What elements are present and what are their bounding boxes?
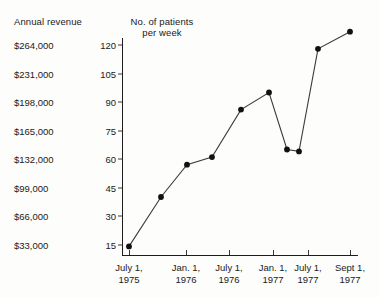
revenue-column-header: Annual revenue xyxy=(14,16,82,27)
patients-tick-label: 105 xyxy=(86,68,116,79)
x-axis-tick xyxy=(186,250,187,255)
data-point-marker xyxy=(315,46,321,52)
data-point-marker xyxy=(126,244,132,250)
patients-tick-label: 75 xyxy=(86,125,116,136)
data-point-marker xyxy=(266,90,272,96)
data-point-marker xyxy=(284,147,290,153)
x-axis-tick xyxy=(273,250,274,255)
patients-series-line xyxy=(129,32,350,247)
data-point-marker xyxy=(296,149,302,155)
x-axis-line xyxy=(122,255,358,256)
revenue-patients-line-chart: Annual revenue No. of patients per week … xyxy=(0,0,379,298)
data-point-marker xyxy=(347,29,353,35)
patients-tick-label: 120 xyxy=(86,40,116,51)
y-axis-line xyxy=(122,38,123,256)
x-axis-tick xyxy=(229,250,230,255)
patients-tick-label: 90 xyxy=(86,97,116,108)
patients-column-header: No. of patients per week xyxy=(120,16,204,38)
data-point-marker xyxy=(158,194,164,200)
x-axis-tick xyxy=(350,250,351,255)
patients-tick-label: 60 xyxy=(86,154,116,165)
patients-tick-label: 15 xyxy=(86,239,116,250)
patients-tick-label: 30 xyxy=(86,211,116,222)
data-point-marker xyxy=(184,162,190,168)
data-point-marker xyxy=(238,107,244,113)
x-axis-tick xyxy=(129,250,130,255)
data-point-marker xyxy=(209,154,215,160)
patients-tick-label: 45 xyxy=(86,182,116,193)
x-axis-tick xyxy=(308,250,309,255)
x-axis-tick-label: Sept 1, 1977 xyxy=(320,262,379,285)
x-axis-tick-label: July 1, 1975 xyxy=(99,262,159,285)
series-markers xyxy=(126,29,353,250)
